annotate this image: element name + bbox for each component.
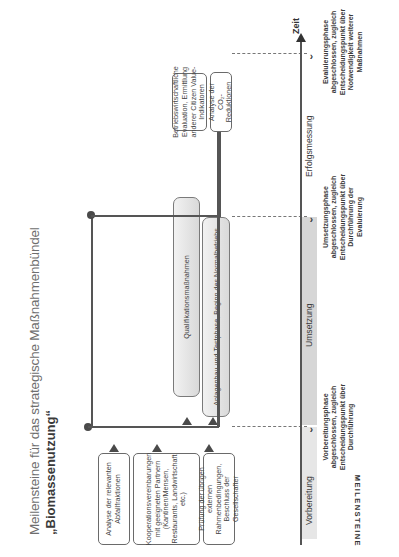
rotated-diagram-canvas: Meilensteine für das strategische Maßnah… <box>0 0 399 557</box>
phase-label-erfolgsmessung: Erfolgsmessung <box>304 115 314 177</box>
box-analyse-co2-reduktionen: Analyse der CO₂-Reduktionen <box>210 72 232 132</box>
box-label: Qualifikationsmaßnahmen <box>182 255 191 339</box>
diagram-title: Meilensteine für das strategische Maßnah… <box>27 227 42 535</box>
milestone-dash-1 <box>232 426 307 427</box>
box-label: Kooperationsvereinbarungen mit geeignete… <box>145 453 188 545</box>
box-pruefung-rahmenbedingungen: Prüfung der übrigen externen Rahmenbedin… <box>203 453 235 545</box>
milestone-evaluierung: Evaluierungsphase abgeschlossen, zugleic… <box>322 2 364 102</box>
evaluation-riser-line <box>91 215 218 217</box>
arrow-icon <box>152 444 162 452</box>
arrow-icon <box>204 444 214 452</box>
box-analyse-abfallfraktionen: Analyse der relevanten Abfallfraktionen <box>98 453 130 545</box>
milestone-chevron-icon: › <box>310 51 313 62</box>
time-axis-label: Zeit <box>291 18 301 34</box>
box-label: Analyse der relevanten Abfallfraktionen <box>105 457 122 541</box>
box-kooperationsvereinbarungen: Kooperationsvereinbarungen mit geeignete… <box>133 453 200 545</box>
box-anlagenbau-testphase: Anlagenbau und Testphase, Beginn des Nor… <box>202 217 230 417</box>
phase-label-vorbereitung: Vorbereitung <box>304 476 314 525</box>
milestone-chevron-icon: › <box>310 214 313 225</box>
time-axis-arrow-icon <box>296 33 306 42</box>
milestone-umsetzung: Umsetzungsphase abgeschlossen, zugleich … <box>322 167 364 267</box>
box-qualifikationsmassnahmen: Qualifikationsmaßnahmen <box>173 197 200 397</box>
milestone-dash-2 <box>232 216 307 217</box>
qualifikation-connector <box>91 215 93 427</box>
start-bracket-line <box>88 426 219 428</box>
box-label: Betriebswirtschaftliche Evaluation, Ermi… <box>172 66 206 138</box>
arrow-icon <box>182 417 192 425</box>
arrow-icon <box>109 444 119 452</box>
phase-label-umsetzung: Umsetzung <box>304 304 314 347</box>
box-label: Analyse der CO₂-Reduktionen <box>208 76 234 128</box>
diagram-subtitle: „Biomassenutzung“ <box>43 410 58 535</box>
milestone-vorbereitung: Vorbereitungsphase abgeschlossen, zuglei… <box>322 377 356 477</box>
box-label: Prüfung der übrigen externen Rahmenbedin… <box>198 457 241 541</box>
milestone-dash-3 <box>232 53 307 54</box>
milestone-chevron-icon: › <box>310 424 313 435</box>
meilensteine-label: MEILENSTEINE <box>353 475 362 547</box>
box-betriebswirtschaftliche-evaluation: Betriebswirtschaftliche Evaluation, Ermi… <box>172 73 207 131</box>
